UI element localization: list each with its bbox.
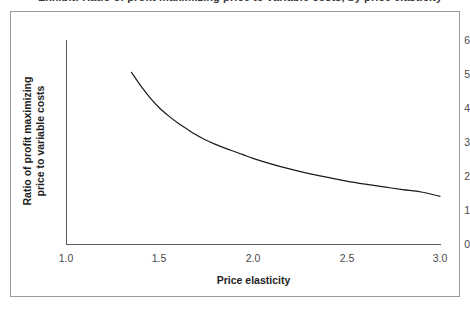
caption-strip: Exhibit: Ratio of profit maximizing pric… (0, 0, 470, 9)
figure-frame (10, 11, 460, 297)
chart-caption: Exhibit: Ratio of profit maximizing pric… (38, 0, 442, 3)
